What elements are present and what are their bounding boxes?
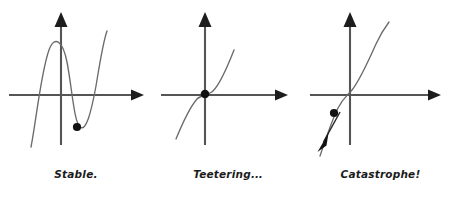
x-axis [310,90,441,101]
caption-catastrophe: Catastrophe! [304,168,457,180]
y-axis [55,12,68,145]
caption-teetering-text: Teetering [193,168,251,180]
y-axis [344,12,357,145]
ball-marker [73,123,81,131]
caption-stable: Stable. [0,168,152,180]
ball-marker [330,109,338,117]
caption-teetering: Teetering... [152,168,304,180]
caption-stable-text: Stable. [54,168,97,180]
caption-teetering-suffix: ... [251,168,263,180]
stability-figure: Stable. Teetering... [0,0,457,201]
panel-catastrophe: Catastrophe! [304,0,457,201]
curve-catastrophe [320,22,389,156]
x-axis [9,90,144,101]
y-axis [199,12,212,145]
caption-catastrophe-text: Catastrophe! [341,168,421,180]
plot-catastrophe [304,0,457,166]
x-axis [161,90,288,101]
panel-stable: Stable. [0,0,152,201]
motion-arrow-icon [318,112,341,152]
ball-marker [201,90,210,99]
plot-teetering [152,0,304,166]
curve-stable [31,31,107,147]
panel-teetering: Teetering... [152,0,304,201]
plot-stable [0,0,152,166]
